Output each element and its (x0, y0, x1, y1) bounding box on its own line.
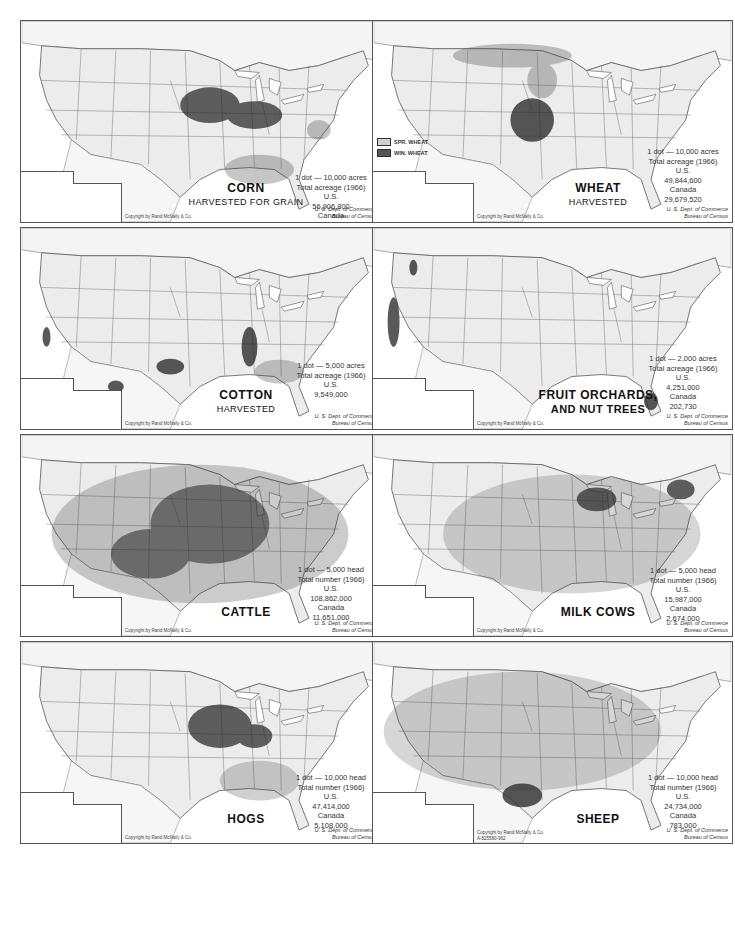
source-line-1: U. S. Dept. of Commerce (667, 620, 728, 627)
source-line-2: Bureau of Census (315, 627, 376, 634)
copyright: Copyright by Rand McNally & Co. (477, 421, 544, 427)
source: U. S. Dept. of Commerce Bureau of Census (315, 620, 376, 633)
source-line-2: Bureau of Census (667, 420, 728, 427)
total-label: Total number (1966) (638, 576, 728, 586)
copyright: Copyright by Rand McNally & Co. (477, 628, 544, 634)
source: U. S. Dept. of Commerce Bureau of Census (667, 620, 728, 633)
source: U. S. Dept. of Commerce Bureau of Census (667, 827, 728, 840)
hawaii-inset (425, 597, 474, 636)
source-line-1: U. S. Dept. of Commerce (315, 413, 376, 420)
dot-value: 1 dot — 2,000 acres (638, 354, 728, 364)
copyright: Copyright by Rand McNally & Co. (125, 628, 192, 634)
source-line-2: Bureau of Census (667, 213, 728, 220)
map-panel-hogs: 1 dot — 10,000 head Total number (1966) … (20, 641, 381, 844)
us-value: 108,862,000 (286, 594, 376, 604)
source-line-2: Bureau of Census (315, 420, 376, 427)
alaska-inset (21, 378, 74, 429)
us-label: U.S. (286, 584, 376, 594)
alaska-inset (21, 585, 74, 636)
copyright-line-2: A-525580-962 (477, 836, 544, 842)
alaska-inset (373, 378, 426, 429)
map-panel-cotton: 1 dot — 5,000 acres Total acreage (1966)… (20, 227, 381, 430)
hawaii-inset (73, 390, 122, 429)
map-title: CATTLE (181, 606, 311, 618)
key-spring-wheat: SPR. WHEAT (377, 138, 428, 146)
title-text: WHEAT (575, 181, 621, 195)
map-title: WHEAT HARVESTED (533, 182, 663, 208)
dot-value: 1 dot — 5,000 head (286, 565, 376, 575)
dot-value: 1 dot — 5,000 acres (286, 361, 376, 371)
us-label: U.S. (638, 585, 728, 595)
copyright: Copyright by Rand McNally & Co. (125, 421, 192, 427)
map-title: FRUIT ORCHARDS, AND NUT TREES (523, 389, 673, 415)
map-panel-milk-cows: 1 dot — 5,000 head Total number (1966) U… (372, 434, 733, 637)
subtitle-text: AND NUT TREES (523, 403, 673, 415)
hawaii-inset (425, 390, 474, 429)
map-panel-sheep: 1 dot — 10,000 head Total number (1966) … (372, 641, 733, 844)
source: U. S. Dept. of Commerce Bureau of Census (315, 206, 376, 219)
title-text: HOGS (227, 812, 264, 826)
subtitle-text: HARVESTED (181, 403, 311, 415)
total-label: Total number (1966) (286, 783, 376, 793)
us-value: 47,414,000 (286, 802, 376, 812)
source-line-1: U. S. Dept. of Commerce (315, 827, 376, 834)
title-text: MILK COWS (561, 605, 636, 619)
copyright: Copyright by Rand McNally & Co. (477, 214, 544, 220)
copyright: Copyright by Rand McNally & Co. (125, 835, 192, 841)
title-text: CORN (227, 181, 264, 195)
map-title: SHEEP (533, 813, 663, 825)
dot-value: 1 dot — 10,000 acres (638, 147, 728, 157)
us-value: 15,987,000 (638, 595, 728, 605)
hawaii-inset (425, 183, 474, 222)
us-value: 24,734,000 (638, 802, 728, 812)
canada-value: 805,220 (286, 221, 376, 224)
map-title: HOGS (181, 813, 311, 825)
source-line-1: U. S. Dept. of Commerce (667, 413, 728, 420)
source-line-1: U. S. Dept. of Commerce (315, 620, 376, 627)
title-text: COTTON (219, 388, 272, 402)
alaska-inset (373, 585, 426, 636)
map-panel-corn-clean: 1 dot — 10,000 acres Total acreage (1966… (20, 20, 381, 223)
subtitle-text: HARVESTED FOR GRAIN (181, 196, 311, 208)
hawaii-inset (73, 183, 122, 222)
map-panel-wheat: SPR. WHEAT WIN. WHEAT 1 dot — 10,000 acr… (372, 20, 733, 223)
map-panel-fruit-orchards: 1 dot — 2,000 acres Total acreage (1966)… (372, 227, 733, 430)
source-line-1: U. S. Dept. of Commerce (667, 206, 728, 213)
alaska-inset (373, 792, 426, 843)
dot-value: 1 dot — 10,000 head (286, 773, 376, 783)
total-label: Total acreage (1966) (638, 364, 728, 374)
map-title: MILK COWS (523, 606, 673, 618)
hawaii-inset (425, 804, 474, 843)
hawaii-inset (73, 804, 122, 843)
source-line-2: Bureau of Census (315, 834, 376, 841)
source-line-2: Bureau of Census (667, 627, 728, 634)
total-label: Total acreage (1966) (638, 157, 728, 167)
map-title: COTTON HARVESTED (181, 389, 311, 415)
spring-wheat-swatch (377, 138, 391, 146)
title-text: CATTLE (221, 605, 270, 619)
source: U. S. Dept. of Commerce Bureau of Census (667, 413, 728, 426)
total-label: Total number (1966) (286, 575, 376, 585)
key-label: SPR. WHEAT (394, 139, 428, 145)
source-line-2: Bureau of Census (315, 213, 376, 220)
total-label: Total number (1966) (638, 783, 728, 793)
key-label: WIN. WHEAT (394, 150, 428, 156)
source-line-1: U. S. Dept. of Commerce (667, 827, 728, 834)
map-panel-cattle: 1 dot — 5,000 head Total number (1966) U… (20, 434, 381, 637)
hawaii-inset (73, 597, 122, 636)
title-text: SHEEP (576, 812, 619, 826)
source: U. S. Dept. of Commerce Bureau of Census (315, 827, 376, 840)
winter-wheat-swatch (377, 149, 391, 157)
alaska-inset (21, 792, 74, 843)
alaska-inset (373, 171, 426, 222)
dot-value: 1 dot — 5,000 head (638, 566, 728, 576)
source: U. S. Dept. of Commerce Bureau of Census (315, 413, 376, 426)
source-line-1: U. S. Dept. of Commerce (315, 206, 376, 213)
dot-value: 1 dot — 10,000 head (638, 773, 728, 783)
title-text: FRUIT ORCHARDS, (539, 388, 658, 402)
source-line-2: Bureau of Census (667, 834, 728, 841)
subtitle-text: HARVESTED (533, 196, 663, 208)
us-label: U.S. (638, 373, 728, 383)
us-label: U.S. (638, 166, 728, 176)
source: U. S. Dept. of Commerce Bureau of Census (667, 206, 728, 219)
